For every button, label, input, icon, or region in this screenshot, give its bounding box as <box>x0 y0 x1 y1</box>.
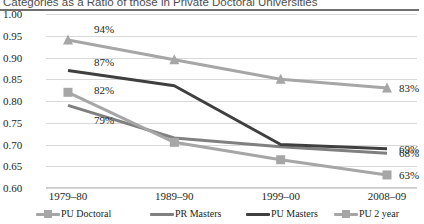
chart-legend: PU DoctoralPR MastersPU MastersPU 2 year <box>0 206 419 222</box>
data-point-marker <box>170 138 179 147</box>
legend-swatch-icon <box>246 208 270 220</box>
x-tick-label: 2008–09 <box>342 190 424 203</box>
legend-label: PU Doctoral <box>61 208 111 220</box>
legend-item[interactable]: PU Masters <box>246 206 318 222</box>
series-line <box>68 40 387 88</box>
y-tick-label: 0.65 <box>3 161 41 172</box>
legend-label: PU 2 year <box>359 208 399 220</box>
y-tick-label: 0.95 <box>3 31 41 42</box>
data-label: 82% <box>94 85 114 96</box>
data-point-marker <box>64 88 73 97</box>
series-lines <box>46 14 417 188</box>
x-tick-label: 1989–90 <box>129 190 219 203</box>
data-label: 63% <box>399 170 419 181</box>
x-axis-line <box>46 187 417 188</box>
gridline <box>46 188 417 189</box>
x-axis-tick-labels: 1979–801989–901999–002008–09 <box>46 190 417 204</box>
y-tick-label: 0.70 <box>3 140 41 151</box>
data-label: 83% <box>399 83 419 94</box>
data-label: 69% <box>399 144 419 155</box>
plot-area <box>46 14 417 188</box>
legend-swatch-icon <box>36 208 60 220</box>
x-tick-label: 1999–00 <box>236 190 326 203</box>
title-divider <box>0 9 419 11</box>
data-point-marker <box>276 155 285 164</box>
chart-title: Categories as a Ratio of those in Privat… <box>3 0 416 9</box>
y-tick-label: 1.00 <box>3 9 41 20</box>
legend-swatch-icon <box>334 208 358 220</box>
y-tick-label: 0.75 <box>3 118 41 129</box>
legend-swatch-icon <box>150 208 174 220</box>
legend-label: PU Masters <box>271 208 318 220</box>
y-tick-label: 0.80 <box>3 96 41 107</box>
data-label: 87% <box>94 57 114 68</box>
legend-item[interactable]: PR Masters <box>150 206 221 222</box>
legend-label: PR Masters <box>175 208 221 220</box>
legend-item[interactable]: PU 2 year <box>334 206 399 222</box>
y-tick-label: 0.85 <box>3 74 41 85</box>
y-tick-label: 0.90 <box>3 53 41 64</box>
x-tick-label: 1979–80 <box>23 190 113 203</box>
series-line <box>68 71 387 149</box>
legend-item[interactable]: PU Doctoral <box>36 206 111 222</box>
data-point-marker <box>383 170 392 179</box>
data-label: 79% <box>94 115 114 126</box>
data-label: 94% <box>94 24 114 35</box>
series-line <box>68 92 387 175</box>
